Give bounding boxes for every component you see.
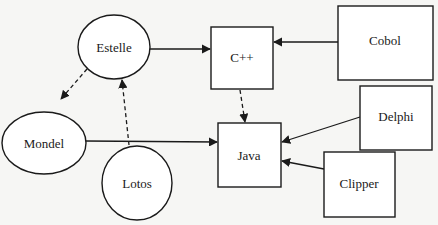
node-delphi: Delphi [360,86,432,150]
node-label: Lotos [122,176,152,191]
node-label: Cobol [369,33,401,48]
node-label: Delphi [378,109,414,124]
node-label: C++ [230,50,253,65]
node-label: Clipper [340,176,380,191]
node-estelle: Estelle [78,15,150,79]
diagram-canvas: Estelle C++ Cobol Mondel Java Delphi Lot… [0,0,438,225]
node-clipper: Clipper [324,152,395,217]
edge-delphi-java [282,117,360,142]
node-label: Mondel [24,136,65,151]
edge-clipper-java [282,161,324,169]
edge-cpp-java [240,90,245,122]
edge-estelle-mondel [61,69,87,99]
node-cpp: C++ [211,27,273,89]
node-mondel: Mondel [2,112,86,174]
node-label: Java [237,148,260,163]
node-java: Java [218,123,281,187]
node-cobol: Cobol [338,6,433,80]
node-lotos: Lotos [102,146,172,220]
node-label: Estelle [96,40,132,55]
edge-mondel-java [86,141,217,142]
edge-lotos-estelle [122,80,129,145]
